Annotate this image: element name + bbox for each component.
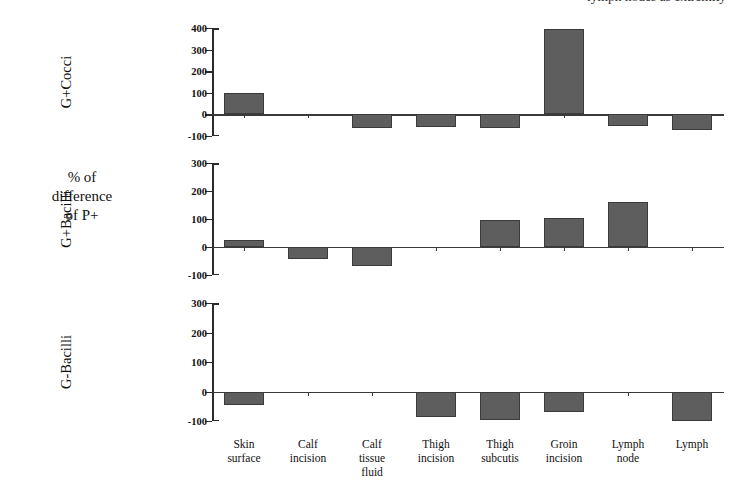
plot-area: 3002001000-100: [212, 303, 724, 421]
x-axis-label-line: surface: [212, 451, 276, 465]
x-tick-mark: [500, 247, 501, 251]
bar: [608, 114, 648, 125]
y-tick-label: 0: [202, 109, 207, 120]
x-axis-label-line: incision: [404, 451, 468, 465]
bar: [288, 247, 328, 259]
x-axis-label-line: incision: [532, 451, 596, 465]
x-tick-mark: [308, 114, 309, 118]
x-axis-label-line: Skin: [212, 437, 276, 451]
y-tick-label: -100: [188, 131, 207, 142]
y-tick-label: 100: [191, 214, 207, 225]
y-tick-label: 400: [191, 23, 207, 34]
y-tick-label: 300: [191, 44, 207, 55]
y-axis-spine-cap-bottom: [212, 420, 219, 422]
x-tick-mark: [244, 247, 245, 251]
y-axis-spine-cap-top: [212, 303, 219, 305]
panel-title: G-Bacilli: [0, 303, 132, 421]
x-axis-label-line: Lymph: [596, 437, 660, 451]
x-axis-label-line: Thigh: [404, 437, 468, 451]
y-tick-label: 200: [191, 66, 207, 77]
bar: [352, 247, 392, 266]
x-axis-label: Lymph: [660, 437, 724, 451]
x-axis-label: Lymphnode: [596, 437, 660, 465]
bar: [672, 392, 712, 422]
x-axis-label: Calftissuefluid: [340, 437, 404, 479]
y-axis-spine: [212, 163, 214, 275]
x-axis-label-line: Calf: [276, 437, 340, 451]
y-tick-label: 300: [191, 298, 207, 309]
bar: [416, 392, 456, 418]
clipped-header-text: lymph nodes as extremity: [0, 0, 732, 13]
x-tick-mark: [436, 247, 437, 251]
y-axis-spine-cap-top: [212, 163, 219, 165]
chart-panel-g-bacilli: G-Bacilli3002001000-100: [0, 303, 732, 421]
panel-title-label: G+Cocci: [58, 56, 75, 108]
chart-panel-g-cocci: G+Cocci4003002001000-100: [0, 28, 732, 136]
bar: [544, 392, 584, 412]
y-tick-label: -100: [188, 270, 207, 281]
x-axis-category-labels: SkinsurfaceCalfincisionCalftissuefluidTh…: [212, 437, 724, 494]
zero-baseline: [212, 392, 724, 393]
x-tick-mark: [564, 114, 565, 118]
x-axis-label: Thighincision: [404, 437, 468, 465]
bar: [544, 218, 584, 247]
x-axis-label-line: Thigh: [468, 437, 532, 451]
x-tick-mark: [564, 247, 565, 251]
x-axis-label: Thighsubcutis: [468, 437, 532, 465]
y-tick-label: 200: [191, 186, 207, 197]
bar: [608, 202, 648, 247]
x-axis-label-line: incision: [276, 451, 340, 465]
panel-title: G+Cocci: [0, 28, 132, 136]
y-axis-spine: [212, 303, 214, 421]
y-tick-label: -100: [188, 416, 207, 427]
panel-title-label: G-Bacilli: [58, 335, 75, 389]
y-tick-label: 300: [191, 158, 207, 169]
x-tick-mark: [244, 114, 245, 118]
x-axis-label-line: Groin: [532, 437, 596, 451]
x-axis-label: Calfincision: [276, 437, 340, 465]
y-tick-label: 100: [191, 87, 207, 98]
y-tick-label: 0: [202, 242, 207, 253]
x-tick-mark: [628, 247, 629, 251]
y-tick-label: 200: [191, 327, 207, 338]
x-axis-label-line: Lymph: [660, 437, 724, 451]
x-axis-label-line: node: [596, 451, 660, 465]
plot-area: 3002001000-100: [212, 163, 724, 275]
y-tick-label: 0: [202, 386, 207, 397]
bar: [224, 392, 264, 405]
clipped-header-label: lymph nodes as extremity: [587, 0, 726, 5]
x-tick-mark: [372, 392, 373, 396]
y-axis-spine-cap-top: [212, 28, 219, 30]
x-tick-mark: [628, 392, 629, 396]
y-axis-spine-cap-bottom: [212, 135, 219, 137]
x-axis-label: Skinsurface: [212, 437, 276, 465]
bar: [480, 392, 520, 420]
bar: [224, 240, 264, 247]
panel-title-label: G+Bacilli: [58, 190, 75, 247]
y-axis-spine-cap-bottom: [212, 274, 219, 276]
panel-title: G+Bacilli: [0, 163, 132, 275]
bar: [416, 114, 456, 127]
x-tick-mark: [692, 247, 693, 251]
plot-area: 4003002001000-100: [212, 28, 724, 136]
x-axis-label-line: fluid: [340, 465, 404, 479]
bar: [352, 114, 392, 127]
y-axis-spine: [212, 28, 214, 136]
x-axis-label: Groinincision: [532, 437, 596, 465]
bar: [480, 220, 520, 247]
x-axis-label-line: Calf: [340, 437, 404, 451]
bar: [544, 29, 584, 114]
bar: [224, 93, 264, 115]
x-tick-mark: [308, 392, 309, 396]
bar: [480, 114, 520, 127]
chart-panel-g-bacilli: G+Bacilli3002001000-100: [0, 163, 732, 275]
y-tick-label: 100: [191, 357, 207, 368]
x-axis-label-line: tissue: [340, 451, 404, 465]
bar: [672, 114, 712, 130]
x-axis-label-line: subcutis: [468, 451, 532, 465]
